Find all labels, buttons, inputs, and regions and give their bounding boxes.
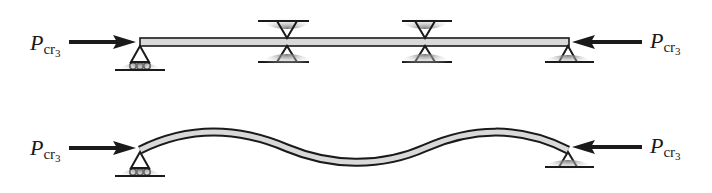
top-left-roller-support bbox=[115, 46, 165, 81]
bottom-right-force-arrow bbox=[572, 140, 642, 154]
bottom-right-pin-support bbox=[544, 152, 594, 178]
top-left-force-arrow bbox=[69, 35, 136, 49]
bottom-panel: Pcr3 bbox=[29, 132, 681, 187]
svg-text:Pcr3: Pcr3 bbox=[29, 135, 61, 164]
top-column-member bbox=[140, 38, 569, 46]
top-right-pin-support bbox=[544, 46, 594, 73]
bottom-left-load-label: Pcr3 bbox=[29, 135, 61, 164]
bottom-right-load-label: Pcr3 bbox=[649, 133, 681, 162]
svg-text:Pcr3: Pcr3 bbox=[649, 133, 681, 162]
top-right-force-arrow bbox=[572, 35, 642, 49]
top-left-load-label: Pcr3 bbox=[29, 30, 61, 59]
bottom-left-force-arrow bbox=[69, 141, 136, 155]
top-right-load-label: Pcr3 bbox=[649, 28, 681, 57]
column-buckling-diagram: Pcr3 bbox=[0, 0, 712, 193]
top-panel: Pcr3 bbox=[29, 9, 681, 81]
svg-text:Pcr3: Pcr3 bbox=[649, 28, 681, 57]
svg-text:Pcr3: Pcr3 bbox=[29, 30, 61, 59]
bottom-left-roller-support bbox=[115, 152, 165, 187]
bottom-buckled-column bbox=[140, 132, 568, 162]
